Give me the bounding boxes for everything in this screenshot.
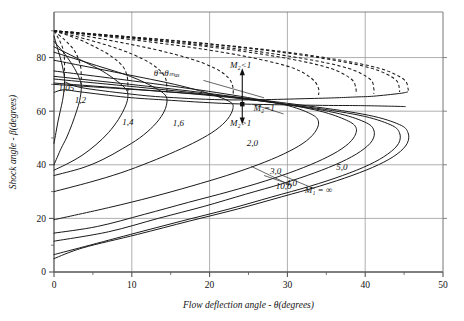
y-tick-label: 40 [37,160,47,170]
curve-label-1-6: 1,6 [173,118,185,128]
x-tick-label: 10 [127,280,137,290]
y-tick-label: 60 [37,107,47,117]
curve-label-10-0: 10,0 [276,181,292,191]
x-tick-label: 40 [360,280,370,290]
y-tick-label: 80 [37,53,47,63]
annotation-m2-equal-1: M₂=1 [252,103,274,113]
curve-label-1-2: 1,2 [75,95,87,105]
chart-figure: 01020304050020406080 1,051,21,41,62,03,0… [0,0,464,321]
sonic-point-marker [240,102,244,106]
curve-label-3-0: 3,0 [269,166,282,176]
chart-background [0,0,464,321]
annotation-theta-max: θ=θₘₐₓ [154,68,181,78]
y-tick-label: 0 [41,267,46,277]
annotation-m2-less-than-1: M₂<1 [229,60,251,70]
x-tick-label: 0 [52,280,57,290]
curve-label-m1-inf: M₁ = ∞ [304,185,333,195]
x-tick-label: 50 [438,280,448,290]
y-tick-label: 20 [37,214,47,224]
x-axis-title: Flow deflection angle - θ(degrees) [182,300,314,311]
curve-label-1-05: 1,05 [59,83,75,93]
theta-beta-mach-chart: 01020304050020406080 1,051,21,41,62,03,0… [0,0,464,321]
curve-label-5-0: 5,0 [336,162,348,172]
annotation-m2-greater-than-1: M₂>1 [229,118,251,128]
x-tick-label: 30 [283,280,293,290]
y-axis-title: Shock angle - β(degrees) [8,95,19,189]
curve-label-2-0: 2,0 [247,138,259,148]
curve-label-1-4: 1,4 [122,117,134,127]
x-tick-label: 20 [205,280,215,290]
